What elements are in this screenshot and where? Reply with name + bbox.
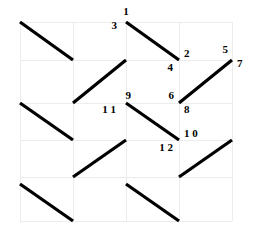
segment-s4 — [179, 60, 232, 103]
line-segment-diagram — [0, 0, 254, 237]
segment-s9 — [20, 184, 73, 221]
point-label-10: 1 0 — [184, 128, 198, 139]
segment-s8 — [179, 140, 232, 177]
point-label-1: 1 — [96, 6, 156, 17]
point-label-11: 1 1 — [0, 104, 116, 115]
point-label-12: 1 2 — [0, 142, 173, 153]
point-label-3: 3 — [0, 20, 117, 31]
figure-canvas: 1324576891 11 01 2 — [0, 0, 254, 237]
segment-s10 — [126, 184, 179, 221]
point-label-5: 5 — [0, 44, 228, 55]
point-label-7: 7 — [237, 58, 243, 69]
segment-s6 — [126, 103, 179, 140]
point-label-4: 4 — [0, 62, 173, 73]
point-label-9: 9 — [0, 90, 131, 101]
point-label-8: 8 — [184, 104, 190, 115]
